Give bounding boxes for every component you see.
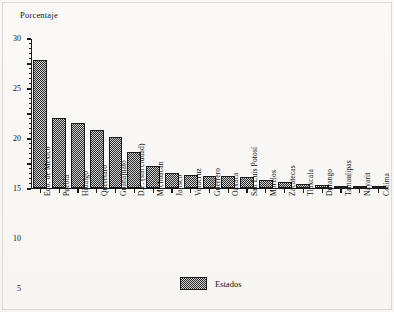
bar (221, 38, 235, 188)
x-tick (171, 189, 172, 193)
bar (203, 38, 217, 188)
x-tick (303, 189, 304, 193)
x-tick-label: San Luis Potosí (250, 147, 259, 196)
bar (372, 38, 386, 188)
x-tick-label: Colima (382, 173, 391, 196)
x-tick-label: Puebla (62, 175, 71, 196)
bar (52, 38, 66, 188)
x-tick (59, 189, 60, 193)
y-tick-major: 0 (27, 188, 31, 189)
x-tick (153, 189, 154, 193)
y-tick-label: 30 (13, 34, 21, 43)
x-tick-label: Edo. de México (43, 146, 52, 196)
x-tick (77, 189, 78, 193)
x-tick-label: Zacatecas (288, 165, 297, 196)
x-tick (40, 189, 41, 193)
x-tick (284, 189, 285, 193)
y-tick-label: 25 (13, 84, 21, 93)
x-tick (359, 189, 360, 193)
bar (184, 38, 198, 188)
x-tick (340, 189, 341, 193)
x-tick (228, 189, 229, 193)
x-tick (265, 189, 266, 193)
x-tick-label: Tlaxcala (306, 169, 315, 196)
bar (71, 38, 85, 188)
x-tick (378, 189, 379, 193)
x-tick-label: Guanajuato (119, 160, 128, 196)
bar (315, 38, 329, 188)
x-tick (190, 189, 191, 193)
legend: Estados (180, 277, 241, 290)
y-tick-label: 20 (13, 134, 21, 143)
x-tick (322, 189, 323, 193)
x-tick-label: D.F. (sin ciudad) (137, 143, 146, 196)
x-tick-label: Nayarit (363, 173, 372, 196)
x-tick-label: Oaxaca (231, 173, 240, 196)
bar (165, 38, 179, 188)
x-tick-label: Veracruz (194, 168, 203, 196)
x-tick (134, 189, 135, 193)
bar (353, 38, 367, 188)
y-tick-label: 10 (13, 234, 21, 243)
x-tick-label: Morelos (269, 170, 278, 196)
x-tick-label: Tamaulipas (344, 160, 353, 196)
x-tick (115, 189, 116, 193)
x-tick-label: Durango (325, 169, 334, 196)
legend-label-estados: Estados (215, 279, 241, 289)
y-tick-label: 15 (13, 184, 21, 193)
x-tick-label: Michoacán (156, 161, 165, 196)
chart-figure: Porcentaje 051015202530 Edo. de MéxicoPu… (0, 0, 394, 312)
y-axis-title: Porcentaje (20, 10, 58, 20)
bar (259, 38, 273, 188)
x-tick-label: Hidalgo (81, 171, 90, 196)
bar-series (31, 39, 388, 188)
bar (296, 38, 310, 188)
x-tick-label: Guerrero (213, 168, 222, 196)
x-tick (246, 189, 247, 193)
y-tick-label: 5 (17, 284, 21, 293)
x-axis-labels: Edo. de MéxicoPueblaHidalgoQuerétaroGuan… (31, 196, 388, 276)
x-tick (209, 189, 210, 193)
plot-area: 051015202530 (31, 39, 388, 189)
x-tick-label: Querétaro (100, 165, 109, 196)
x-tick-label: Jalisco (175, 175, 184, 196)
legend-swatch-estados (180, 277, 207, 290)
x-tick (96, 189, 97, 193)
